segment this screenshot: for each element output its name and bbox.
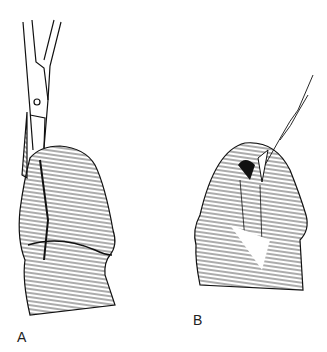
panel-label-a: A [17,330,26,344]
glans-a [19,146,115,315]
panel-label-b: B [193,313,202,327]
line-drawing [0,0,327,352]
panel-b-drawing [195,75,313,290]
panel-a-drawing [19,20,115,320]
surgical-illustration: A B [0,0,327,352]
